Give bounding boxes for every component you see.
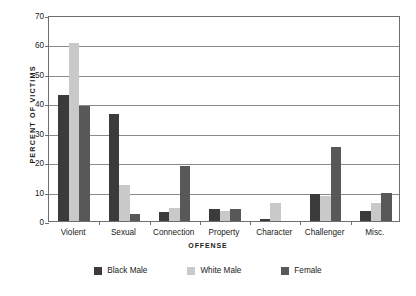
bar-blackmale-misc [360,211,371,221]
bar-whitemale-connection [169,208,180,221]
bar-female-challenger [331,147,342,221]
y-tick-label-70: 70 [22,12,44,21]
x-tick-label-sexual: Sexual [111,228,136,237]
bar-whitemale-misc [371,203,382,221]
bar-whitemale-sexual [119,185,130,221]
legend-swatch-icon [281,267,289,275]
legend-label: Black Male [107,266,147,275]
y-tick-label-20: 20 [22,159,44,168]
x-tick-label-misc: Misc. [365,228,384,237]
x-axis-title: OFFENSE [0,242,416,249]
y-tick-label-30: 30 [22,129,44,138]
bar-group-sexual [109,17,141,221]
bar-group-connection [159,17,191,221]
plot-area [48,16,400,222]
bar-blackmale-sexual [109,114,120,221]
bar-chart: PERCENT OF VICTIMS 010203040506070 Viole… [0,0,416,296]
bar-female-connection [180,166,191,221]
bar-female-violent [79,106,90,221]
bar-blackmale-character [260,219,271,221]
bar-blackmale-connection [159,212,170,221]
y-tick-label-60: 60 [22,41,44,50]
chart-legend: Black MaleWhite MaleFemale [0,266,416,275]
y-tick-mark-60 [45,46,49,47]
bar-group-property [209,17,241,221]
legend-label: White Male [200,266,241,275]
bar-blackmale-violent [58,95,69,221]
bar-whitemale-property [220,211,231,221]
x-tick-label-character: Character [256,228,292,237]
y-tick-mark-30 [45,135,49,136]
bar-group-misc [360,17,392,221]
bar-whitemale-violent [69,43,80,221]
bar-female-misc [381,193,392,221]
bar-whitemale-challenger [320,196,331,221]
bar-female-property [230,209,241,221]
x-tick-label-violent: Violent [61,228,86,237]
legend-swatch-icon [187,267,195,275]
x-tick-mark-3 [200,221,201,225]
x-tick-mark-2 [150,221,151,225]
bar-group-violent [58,17,90,221]
legend-item-whitemale[interactable]: White Male [187,266,241,275]
x-tick-mark-5 [300,221,301,225]
bar-group-character [260,17,292,221]
bar-blackmale-challenger [310,194,321,221]
y-tick-mark-70 [45,17,49,18]
x-tick-label-connection: Connection [153,228,194,237]
x-tick-label-property: Property [209,228,240,237]
legend-label: Female [294,266,321,275]
legend-swatch-icon [94,267,102,275]
x-tick-label-challenger: Challenger [305,228,345,237]
bar-blackmale-property [209,209,220,221]
y-tick-label-50: 50 [22,70,44,79]
x-tick-mark-4 [250,221,251,225]
y-tick-mark-0 [45,223,49,224]
y-tick-label-10: 10 [22,188,44,197]
y-tick-mark-40 [45,105,49,106]
y-tick-mark-10 [45,194,49,195]
x-tick-mark-1 [99,221,100,225]
bar-group-challenger [310,17,342,221]
y-tick-mark-50 [45,76,49,77]
bar-whitemale-character [270,203,281,221]
y-tick-label-0: 0 [22,218,44,227]
legend-item-blackmale[interactable]: Black Male [94,266,147,275]
legend-item-female[interactable]: Female [281,266,321,275]
y-tick-label-40: 40 [22,100,44,109]
bar-female-sexual [130,214,141,221]
y-tick-mark-20 [45,164,49,165]
x-tick-mark-6 [351,221,352,225]
